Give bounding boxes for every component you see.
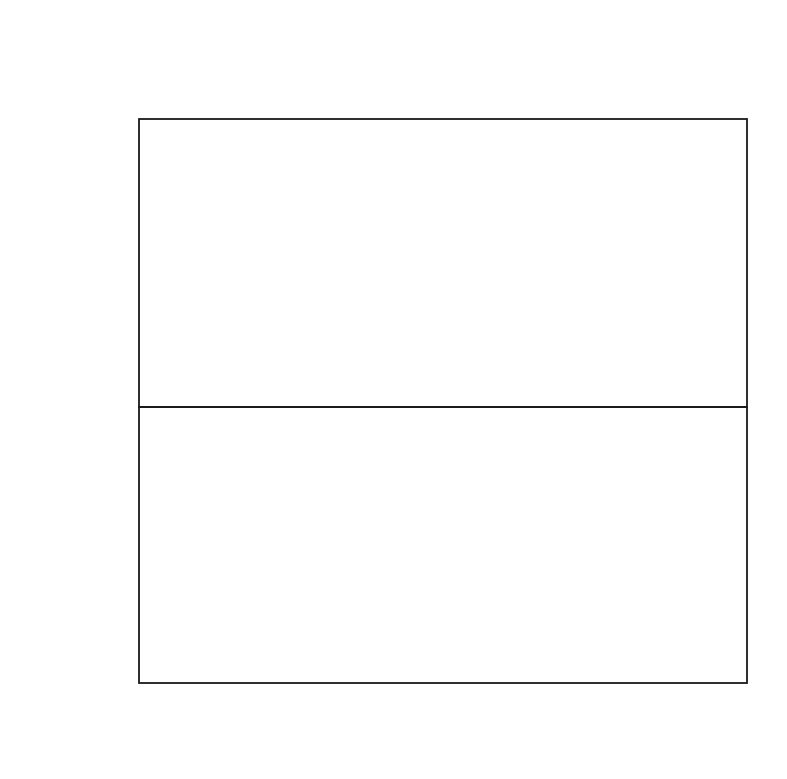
bottom-panel: [0, 0, 747, 683]
chart-figure: [0, 0, 787, 779]
bottom-panel-frame: [139, 407, 747, 683]
top-panel-frame: [139, 119, 747, 407]
top-panel: [139, 119, 747, 407]
